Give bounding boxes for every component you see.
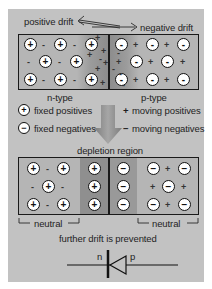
diode-symbol-icon	[0, 0, 212, 289]
diode-n-label: n	[97, 251, 102, 262]
diode-p-label: p	[130, 251, 135, 262]
